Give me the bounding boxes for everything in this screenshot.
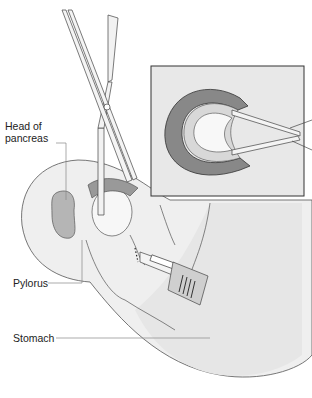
cross-section-inset <box>151 66 312 196</box>
label-line: pancreas <box>5 132 48 144</box>
label-head-of-pancreas: Head of pancreas <box>5 120 48 144</box>
label-pylorus: Pylorus <box>13 277 48 289</box>
label-line: Head of <box>5 120 48 132</box>
label-stomach: Stomach <box>13 332 54 344</box>
